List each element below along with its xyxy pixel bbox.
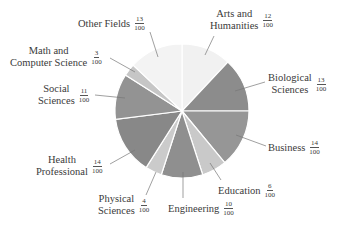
slice-label-text: SocialSciences: [38, 83, 75, 107]
leader-line-physical: [146, 172, 156, 195]
slice-label-arts: Arts andHumanities12100: [210, 8, 274, 32]
fraction-numerator: 12: [263, 12, 272, 21]
fraction-numerator: 4: [141, 197, 147, 206]
fraction-denominator: 100: [264, 191, 277, 199]
slice-label-social: SocialSciences11100: [38, 83, 90, 107]
fraction-numerator: 10: [224, 200, 233, 209]
slice-fraction: 13100: [315, 76, 328, 93]
slice-label-business: Business14100: [268, 139, 321, 156]
slice-fraction: 4100: [138, 197, 151, 214]
slice-fraction: 10100: [222, 200, 235, 217]
slice-label-health: HealthProfessional14100: [36, 154, 103, 178]
fraction-denominator: 100: [308, 148, 321, 156]
pie-chart: [0, 0, 344, 230]
leader-line-health: [110, 150, 135, 164]
fraction-denominator: 100: [138, 206, 151, 214]
fraction-denominator: 100: [261, 21, 274, 29]
slice-fraction: 6100: [264, 182, 277, 199]
slice-label-bio: BiologicalSciences13100: [268, 72, 327, 96]
fraction-numerator: 13: [135, 15, 144, 24]
fraction-denominator: 100: [133, 24, 146, 32]
slice-label-text: Math andComputer Science: [10, 45, 87, 69]
slice-label-education: Education6100: [218, 182, 276, 199]
slice-fraction: 14100: [91, 158, 104, 175]
fraction-denominator: 100: [78, 96, 91, 104]
fraction-denominator: 100: [91, 167, 104, 175]
fraction-numerator: 6: [267, 182, 273, 191]
slice-fraction: 13100: [133, 15, 146, 32]
slice-label-text: HealthProfessional: [36, 154, 88, 178]
leader-line-math: [110, 58, 135, 72]
slice-label-math: Math andComputer Science3100: [10, 45, 103, 69]
fraction-denominator: 100: [222, 209, 235, 217]
fraction-numerator: 3: [94, 49, 100, 58]
fraction-denominator: 100: [315, 85, 328, 93]
slice-label-text: Other Fields: [78, 18, 130, 30]
slice-label-text: Arts andHumanities: [210, 8, 258, 32]
fraction-numerator: 11: [80, 87, 89, 96]
slice-fraction: 11100: [78, 87, 91, 104]
fraction-numerator: 13: [317, 76, 326, 85]
fraction-numerator: 14: [93, 158, 102, 167]
fraction-numerator: 14: [310, 139, 319, 148]
slice-label-physical: PhysicalSciences4100: [98, 193, 150, 217]
slice-label-text: BiologicalSciences: [268, 72, 312, 96]
slice-label-text: Education: [218, 185, 261, 197]
slice-label-text: PhysicalSciences: [98, 193, 135, 217]
slice-label-engineering: Engineering10100: [168, 200, 235, 217]
slice-label-text: Engineering: [168, 203, 219, 215]
slice-label-text: Business: [268, 142, 305, 154]
slice-fraction: 14100: [308, 139, 321, 156]
slice-label-other: Other Fields13100: [78, 15, 146, 32]
slice-fraction: 12100: [261, 12, 274, 29]
fraction-denominator: 100: [90, 58, 103, 66]
pie-slices: [115, 44, 249, 178]
slice-fraction: 3100: [90, 49, 103, 66]
